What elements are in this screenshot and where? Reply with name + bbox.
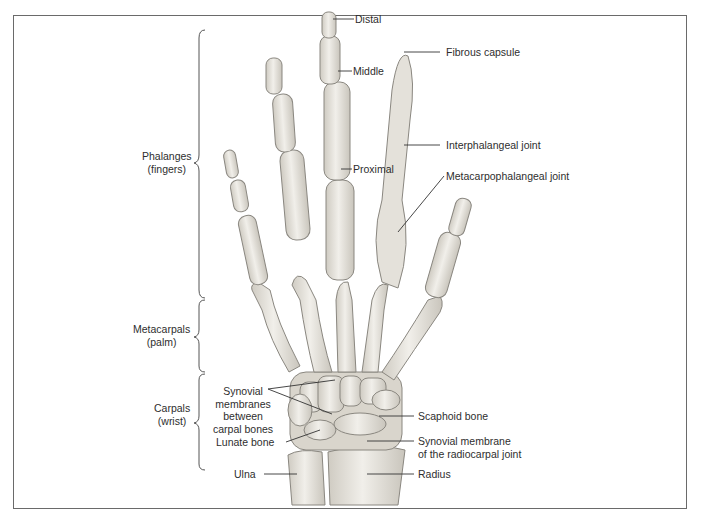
label-scaphoid-bone: Scaphoid bone [418, 410, 488, 423]
phalanges-sublabel: (fingers) [142, 163, 192, 176]
synovial-line-4: carpal bones [213, 423, 273, 436]
metacarpals-sublabel: (palm) [133, 336, 190, 349]
region-label-metacarpals: Metacarpals (palm) [133, 323, 190, 349]
synovial-line-3: between [213, 410, 273, 423]
metacarpals-label: Metacarpals [133, 323, 190, 336]
label-synovial-membranes: Synovial membranes between carpal bones [213, 385, 273, 435]
region-label-carpals: Carpals (wrist) [154, 402, 190, 428]
label-interphalangeal-joint: Interphalangeal joint [446, 139, 541, 152]
label-radius: Radius [418, 468, 451, 481]
synovial-line-2: membranes [213, 398, 273, 411]
region-label-phalanges: Phalanges (fingers) [142, 150, 192, 176]
phalanges-label: Phalanges [142, 150, 192, 163]
label-lunate-bone: Lunate bone [216, 436, 274, 449]
label-ulna: Ulna [234, 468, 256, 481]
radiocarpal-line-2: of the radiocarpal joint [418, 448, 521, 461]
label-metacarpophalangeal-joint: Metacarpophalangeal joint [446, 170, 569, 183]
carpals-label: Carpals [154, 402, 190, 415]
synovial-line-1: Synovial [213, 385, 273, 398]
label-distal: Distal [355, 13, 381, 26]
label-middle: Middle [353, 65, 384, 78]
hand-skeleton-illustration [0, 0, 701, 518]
radiocarpal-line-1: Synovial membrane [418, 435, 521, 448]
label-radiocarpal-synovial-membrane: Synovial membrane of the radiocarpal joi… [418, 435, 521, 460]
label-proximal: Proximal [353, 163, 394, 176]
label-fibrous-capsule: Fibrous capsule [446, 46, 520, 59]
carpals-sublabel: (wrist) [154, 415, 190, 428]
